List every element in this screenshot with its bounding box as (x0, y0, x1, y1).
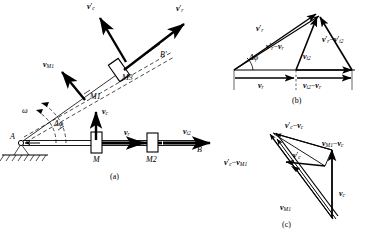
v-t2-label-a: vt2 (183, 128, 191, 136)
v-r-prime-label-a: v′r (176, 5, 183, 13)
caption-c: (c) (282, 220, 291, 229)
v-r-label-a: vr (124, 129, 130, 137)
slider-M2 (147, 133, 158, 152)
omega-arrowhead (41, 102, 49, 107)
delta-phi-arrowhead (36, 109, 43, 114)
v-c-prime-label-a: v′c (87, 3, 95, 11)
omega-label: ω (22, 107, 28, 115)
caption-a: (a) (110, 172, 119, 181)
panel-b (234, 14, 355, 90)
v-r-prime-minus-v-t2-label-b: v′r−v′t2 (322, 36, 344, 44)
point-label-M3: M3 (122, 74, 133, 82)
v-M1-label-a: vM1 (43, 61, 54, 69)
v-c-prime-right-edge (325, 150, 332, 166)
v-c-label-a: vc (102, 108, 108, 116)
v-M1-label-c: vM1 (280, 204, 291, 212)
point-label-A: A (10, 133, 15, 141)
panel-a (0, 18, 210, 161)
caption-b: (b) (292, 96, 301, 105)
v-M1-minus-v-c-label-c: vM1−vc (322, 140, 343, 148)
point-label-M2: M2 (146, 156, 157, 164)
point-label-M: M (93, 156, 100, 164)
point-label-B: B (197, 146, 202, 154)
v-r-prime-arrow (124, 24, 184, 70)
v-c-label-c: vc (339, 190, 345, 198)
delta-phi-label-b: Δφ (249, 54, 258, 62)
v-t2-label-b: vt2 (303, 53, 311, 61)
point-label-M1: M1 (90, 93, 101, 101)
v-c-prime-minus-v-c-label-c: v′c−vc (285, 122, 303, 130)
delta-phi-arc (40, 113, 56, 143)
v-r-label-b: vr (258, 82, 264, 90)
ground-support (0, 144, 48, 161)
v-r-prime-label-b: v′r (256, 25, 263, 33)
delta-phi-label-a: Δφ (54, 120, 63, 128)
v-c-prime-minus-v-M1-label-c: v′c−vM1 (224, 159, 247, 167)
v-c-prime-arrow (100, 18, 126, 62)
v-c-prime-label-c: v′c (293, 152, 301, 160)
v-t2-minus-v-r-label-b: vt2−vr (303, 82, 321, 90)
v-M1-arrow (62, 72, 85, 100)
v-r-prime-minus-v-r-label-b: v′r−vr (266, 43, 284, 51)
point-label-B-prime: B′ (160, 51, 167, 59)
